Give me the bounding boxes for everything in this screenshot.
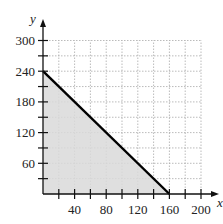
y-tick-label: 60 <box>22 156 35 171</box>
x-tick-label: 200 <box>191 202 211 217</box>
chart: 408012016020060120180240300xy <box>0 0 223 224</box>
y-axis-label: y <box>28 11 36 26</box>
y-tick-label: 240 <box>16 64 36 79</box>
y-tick-label: 300 <box>16 33 36 48</box>
x-tick-label: 120 <box>128 202 148 217</box>
x-tick-label: 40 <box>68 202 81 217</box>
x-axis-label: x <box>216 195 223 210</box>
x-tick-label: 80 <box>100 202 113 217</box>
x-tick-label: 160 <box>160 202 180 217</box>
y-tick-label: 120 <box>16 125 36 140</box>
y-tick-label: 180 <box>16 94 36 109</box>
y-axis-arrow-icon <box>40 19 46 27</box>
